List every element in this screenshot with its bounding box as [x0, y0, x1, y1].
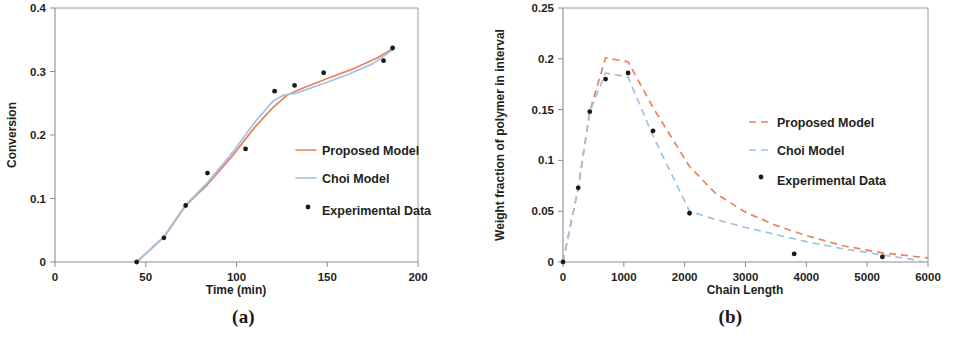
- y-tick-label: 0: [548, 256, 554, 268]
- y-axis-title: Conversion: [5, 102, 19, 168]
- legend-swatch-experimental-data: [759, 175, 764, 180]
- figure-container: 00.10.20.30.4050100150200Time (min)Conve…: [0, 0, 974, 342]
- x-axis-title: Time (min): [206, 283, 266, 297]
- chart-panel-a: 00.10.20.30.4050100150200Time (min)Conve…: [0, 0, 487, 342]
- legend-label-0: Proposed Model: [322, 144, 419, 158]
- data-point-marker: [561, 260, 566, 265]
- x-tick-label: 4000: [794, 271, 820, 283]
- data-point-marker: [183, 203, 188, 208]
- data-point-marker: [292, 83, 297, 88]
- data-point-marker: [651, 129, 656, 134]
- plot-frame: [55, 8, 418, 262]
- data-point-marker: [626, 71, 631, 76]
- legend-label-2: Experimental Data: [322, 204, 432, 218]
- x-tick-label: 5000: [854, 271, 880, 283]
- y-tick-label: 0.2: [538, 53, 554, 65]
- x-tick-label: 3000: [733, 271, 759, 283]
- y-tick-label: 0.3: [30, 66, 46, 78]
- x-tick-label: 2000: [672, 271, 698, 283]
- y-axis-title: Weight fraction of polymer in interval: [493, 29, 507, 241]
- x-tick-label: 0: [52, 271, 58, 283]
- data-point-marker: [587, 109, 592, 114]
- data-point-marker: [243, 147, 248, 152]
- data-point-marker: [321, 70, 326, 75]
- x-tick-label: 1000: [611, 271, 637, 283]
- y-tick-label: 0.25: [532, 2, 555, 14]
- x-tick-label: 6000: [915, 271, 941, 283]
- data-point-marker: [792, 251, 797, 256]
- data-point-marker: [576, 185, 581, 190]
- x-tick-label: 0: [560, 271, 566, 283]
- data-point-marker: [381, 58, 386, 63]
- y-tick-label: 0.2: [30, 129, 46, 141]
- y-tick-label: 0.15: [532, 104, 555, 116]
- data-point-marker: [272, 89, 277, 94]
- legend-label-0: Proposed Model: [777, 116, 874, 130]
- data-point-marker: [134, 260, 139, 265]
- data-point-marker: [687, 211, 692, 216]
- panel-a-caption: (a): [0, 306, 487, 328]
- data-point-marker: [880, 255, 885, 260]
- panel-b-caption: (b): [487, 306, 974, 328]
- data-point-marker: [162, 235, 167, 240]
- chart-panel-b: 00.050.10.150.20.25010002000300040005000…: [487, 0, 974, 342]
- y-tick-label: 0: [40, 256, 46, 268]
- series-line-proposed-model: [563, 58, 928, 262]
- y-tick-label: 0.1: [538, 154, 555, 166]
- y-tick-label: 0.05: [532, 205, 555, 217]
- x-tick-label: 200: [408, 271, 427, 283]
- x-tick-label: 150: [318, 271, 337, 283]
- x-axis-title: Chain Length: [707, 283, 784, 297]
- chart-b-canvas: 00.050.10.150.20.25010002000300040005000…: [487, 0, 974, 342]
- data-point-marker: [390, 46, 395, 51]
- x-tick-label: 50: [139, 271, 152, 283]
- legend-label-2: Experimental Data: [777, 174, 887, 188]
- y-tick-label: 0.4: [30, 2, 47, 14]
- y-tick-label: 0.1: [30, 193, 47, 205]
- plot-frame: [563, 8, 928, 262]
- data-point-marker: [603, 77, 608, 82]
- legend-swatch-experimental-data: [306, 205, 311, 210]
- x-tick-label: 100: [227, 271, 246, 283]
- data-point-marker: [205, 171, 210, 176]
- legend-label-1: Choi Model: [322, 172, 389, 186]
- legend-label-1: Choi Model: [777, 144, 844, 158]
- chart-a-canvas: 00.10.20.30.4050100150200Time (min)Conve…: [0, 0, 487, 342]
- series-line-choi-model: [563, 73, 928, 263]
